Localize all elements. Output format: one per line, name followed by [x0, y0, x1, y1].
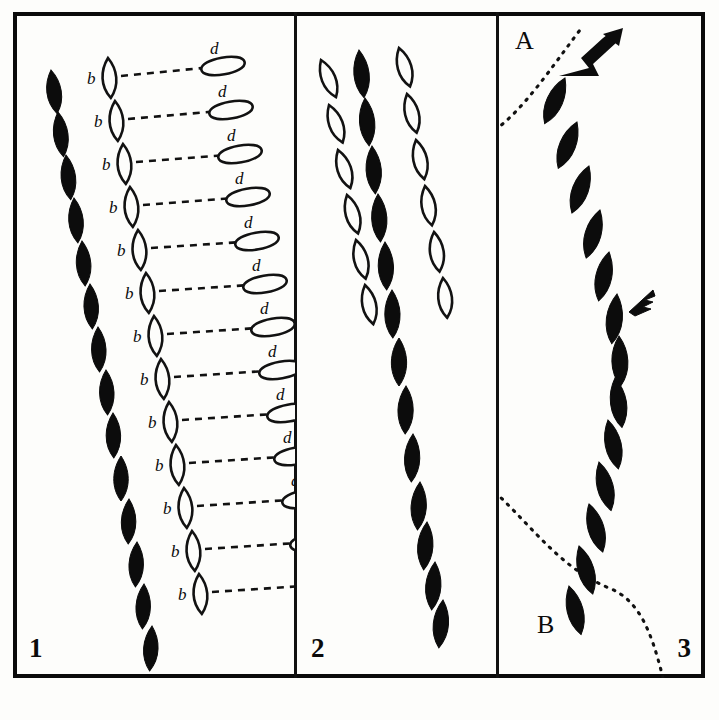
track-teardrop — [59, 154, 78, 200]
track-teardrop — [116, 144, 132, 185]
contour-label-a: A — [515, 28, 534, 54]
track-teardrop — [135, 584, 151, 629]
mark-label-b: b — [163, 499, 172, 518]
track-oval — [281, 487, 295, 511]
mark-label-d: d — [252, 256, 261, 275]
mark-label-b: b — [140, 370, 149, 389]
track-teardrop — [436, 277, 454, 318]
track-teardrop — [185, 531, 201, 572]
panel-1-graphics: bdbdbdbdbdbdbdbdbdbdbdbdbd — [13, 12, 295, 678]
mark-label-b: b — [109, 198, 118, 217]
mark-label-d: d — [283, 428, 292, 447]
track-teardrop — [139, 273, 155, 314]
track-teardrop — [162, 402, 178, 443]
track-teardrop — [315, 57, 343, 99]
pair-connector-dashed-line — [212, 585, 295, 592]
track-teardrop — [579, 208, 608, 260]
track-teardrop — [123, 187, 139, 228]
track-teardrop — [67, 197, 85, 243]
track-teardrop — [537, 75, 572, 127]
track-teardrop — [564, 163, 596, 215]
flag-marker-icon — [629, 290, 655, 316]
track-teardrop — [391, 338, 406, 386]
track-teardrop — [323, 103, 350, 145]
track-teardrop — [108, 101, 124, 142]
track-teardrop — [91, 327, 107, 372]
track-oval — [200, 54, 246, 78]
track-teardrop — [128, 542, 144, 587]
track-teardrop — [349, 238, 372, 280]
track-teardrop — [75, 240, 93, 286]
mark-label-b: b — [155, 456, 164, 475]
track-teardrop — [147, 316, 163, 357]
track-teardrop — [44, 69, 64, 115]
track-oval — [234, 229, 280, 253]
mark-label-d: d — [244, 213, 253, 232]
mark-label-b: b — [148, 413, 157, 432]
track-teardrop — [331, 148, 356, 190]
track-oval — [225, 185, 271, 209]
track-teardrop — [364, 145, 383, 194]
track-oval — [289, 530, 295, 554]
mark-label-b: b — [87, 69, 96, 88]
mark-label-d: d — [260, 299, 269, 318]
track-teardrop — [561, 584, 589, 636]
panel-3-graphics — [499, 12, 705, 678]
track-oval — [258, 358, 295, 382]
track-teardrop — [581, 502, 610, 554]
figure-number-2: 2 — [311, 635, 325, 662]
track-teardrop — [410, 482, 428, 531]
track-teardrop — [370, 194, 388, 243]
track-oval — [208, 98, 254, 122]
track-teardrop — [340, 193, 364, 235]
mark-label-b: b — [133, 327, 142, 346]
mark-label-d: d — [218, 82, 227, 101]
track-teardrop — [101, 58, 117, 99]
mark-label-d: d — [291, 471, 295, 490]
track-teardrop — [551, 119, 585, 171]
track-teardrop — [99, 370, 115, 415]
track-teardrop — [121, 499, 136, 544]
mark-label-b: b — [94, 112, 103, 131]
track-teardrop — [418, 185, 438, 227]
track-teardrop — [398, 386, 414, 434]
mark-label-d: d — [210, 39, 219, 58]
track-teardrop — [358, 284, 380, 326]
track-teardrop — [106, 413, 121, 458]
track-teardrop — [424, 561, 443, 610]
track-teardrop — [351, 49, 371, 98]
pair-connector-dashed-line — [197, 499, 295, 506]
track-teardrop — [604, 293, 625, 344]
mark-label-b: b — [117, 241, 126, 260]
panel-2-graphics — [297, 12, 497, 678]
mark-label-b: b — [178, 585, 187, 604]
track-teardrop — [611, 336, 629, 387]
track-teardrop — [357, 97, 376, 146]
contour-label-b: B — [537, 612, 554, 638]
dotted-contour-b — [499, 492, 663, 678]
track-teardrop — [51, 111, 71, 157]
track-teardrop — [83, 284, 100, 330]
panel-3: A B 3 — [499, 12, 705, 678]
plate-figure: bdbdbdbdbdbdbdbdbdbdbdbdbd 1 2 A B 3 — [0, 0, 719, 720]
track-teardrop — [427, 231, 446, 273]
track-teardrop — [409, 139, 431, 181]
track-teardrop — [384, 290, 400, 338]
figure-number-1: 1 — [29, 635, 43, 662]
track-oval — [266, 401, 295, 425]
track-teardrop — [591, 250, 617, 302]
track-teardrop — [131, 230, 147, 271]
pair-connector-dashed-line — [205, 542, 295, 549]
track-teardrop — [591, 460, 619, 512]
track-teardrop — [404, 434, 421, 483]
mark-label-d: d — [227, 126, 236, 145]
track-teardrop — [377, 242, 394, 291]
track-teardrop — [607, 377, 630, 429]
mark-label-b: b — [125, 284, 134, 303]
figure-number-3: 3 — [678, 635, 692, 662]
track-teardrop — [114, 456, 128, 501]
panel-2: 2 — [297, 12, 497, 678]
dotted-contour-a — [499, 26, 583, 130]
track-oval — [250, 315, 295, 339]
track-teardrop — [142, 626, 159, 672]
